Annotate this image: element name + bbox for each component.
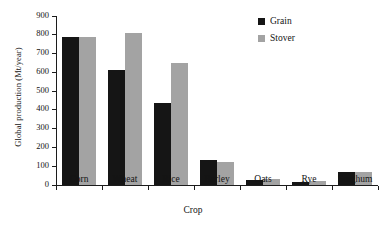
bar-grain-wheat: [108, 70, 125, 185]
legend-item-grain: Grain: [258, 14, 295, 28]
y-axis-tick-label: 600: [36, 66, 49, 76]
bar-grain-corn: [62, 37, 79, 185]
bar-group: [338, 16, 372, 185]
x-axis-line: [56, 185, 378, 186]
legend-label: Grain: [270, 16, 292, 26]
x-axis-title: Crop: [0, 205, 386, 215]
bar-group: [200, 16, 234, 185]
bar-grain-rice: [154, 103, 171, 185]
y-axis-line: [56, 16, 57, 186]
bar-group: [292, 16, 326, 185]
y-axis-tick: 600: [52, 72, 56, 73]
x-axis-tick: [102, 186, 103, 190]
x-axis-tick: [378, 186, 379, 190]
bar-group: [154, 16, 188, 185]
y-axis-tick: 200: [52, 147, 56, 148]
legend-swatch-icon: [258, 35, 265, 42]
y-axis-tick-label: 200: [36, 141, 49, 151]
bar-chart-figure: Global production (Mt/year) 900800700600…: [0, 0, 386, 228]
y-axis-tick-label: 800: [36, 28, 49, 38]
y-axis-tick: 400: [52, 109, 56, 110]
y-axis-tick-label: 300: [36, 122, 49, 132]
x-axis-tick: [194, 186, 195, 190]
x-axis-tick: [148, 186, 149, 190]
bar-stover-corn: [79, 37, 96, 185]
legend-label: Stover: [270, 33, 295, 43]
bar-stover-wheat: [125, 33, 142, 185]
y-axis-tick: 500: [52, 91, 56, 92]
y-axis-tick-label: 700: [36, 47, 49, 57]
y-axis-tick-label: 900: [36, 10, 49, 20]
x-axis-tick: [56, 186, 57, 190]
legend-item-stover: Stover: [258, 31, 295, 45]
x-axis-label-sorghum: Sorghum: [315, 174, 386, 184]
y-axis-tick: 100: [52, 166, 56, 167]
y-axis-title: Global production (Mt/year): [13, 17, 23, 177]
y-axis-tick: 300: [52, 128, 56, 129]
bar-group: [62, 16, 96, 185]
y-axis-tick-label: 100: [36, 160, 49, 170]
bar-stover-rice: [171, 63, 188, 185]
y-axis-tick: 800: [52, 34, 56, 35]
x-axis-tick: [286, 186, 287, 190]
y-axis-tick: 700: [52, 53, 56, 54]
plot-area: 9008007006005004003002001000: [56, 16, 378, 186]
y-axis-tick: 900: [52, 16, 56, 17]
chart-legend: GrainStover: [258, 14, 295, 48]
legend-swatch-icon: [258, 18, 265, 25]
x-axis-tick: [240, 186, 241, 190]
bar-group: [108, 16, 142, 185]
y-axis-tick-label: 500: [36, 85, 49, 95]
x-axis-tick: [332, 186, 333, 190]
y-axis-tick-label: 400: [36, 103, 49, 113]
